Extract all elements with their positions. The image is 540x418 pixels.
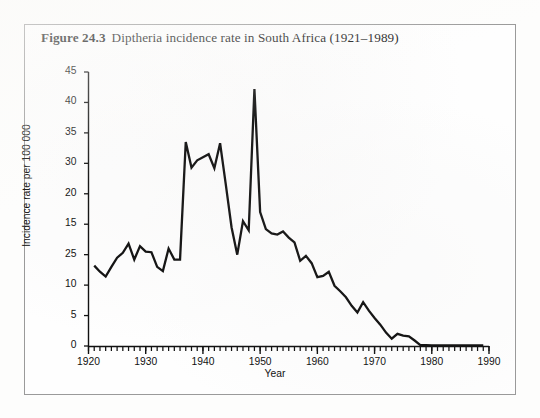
y-axis-tick-label: 35 (51, 126, 77, 137)
y-axis-tick-label: 20 (51, 187, 77, 198)
x-axis-tick-label: 1990 (466, 356, 512, 367)
y-axis-tick-label: 25 (51, 248, 77, 259)
y-axis-tick-label: 40 (51, 95, 77, 106)
y-axis-tick-label: 10 (51, 278, 77, 289)
x-axis-tick-label: 1920 (66, 356, 112, 367)
y-axis-tick-label: 0 (51, 339, 77, 350)
axis-lines (89, 72, 490, 347)
x-axis-tick-label: 1950 (237, 356, 283, 367)
x-axis-tick-label: 1960 (294, 356, 340, 367)
x-axis-tick-label: 1940 (180, 356, 226, 367)
y-axis-tick-label: 15 (51, 217, 77, 228)
figure-container: Figure 24.3Diptheria incidence rate in S… (0, 0, 540, 418)
chart-plot-area: Incidence rate per 100 000 Year 45403530… (0, 0, 540, 418)
y-axis-tick-label: 5 (51, 309, 77, 320)
y-axis-tick-label: 30 (51, 156, 77, 167)
y-axis-tick-label: 45 (51, 65, 77, 76)
x-axis-tick-label: 1980 (409, 356, 455, 367)
x-axis-tick-label: 1970 (352, 356, 398, 367)
data-series-line (94, 89, 483, 345)
x-axis-tick-label: 1930 (123, 356, 169, 367)
